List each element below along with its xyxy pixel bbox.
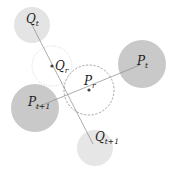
diagram-svg: Qt Qr Pr Pt Pt+1 Qt+1 (0, 0, 175, 171)
label-q-t1: Qt+1 (95, 130, 119, 146)
label-p-r: Pr (83, 74, 96, 90)
dot-q-r (50, 64, 53, 67)
diagram-canvas: Qt Qr Pr Pt Pt+1 Qt+1 (0, 0, 175, 171)
dot-p-r (87, 88, 90, 91)
